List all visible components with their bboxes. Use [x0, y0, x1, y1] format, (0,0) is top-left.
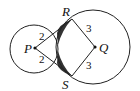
segment-qr: [72, 19, 95, 47]
point-p-dot: [33, 46, 36, 49]
length-ps: 2: [39, 53, 45, 65]
length-qs: 3: [86, 59, 92, 71]
segment-qs: [72, 47, 95, 76]
length-pr: 2: [39, 30, 45, 42]
label-s: S: [62, 77, 69, 91]
label-q: Q: [99, 40, 109, 55]
label-p: P: [23, 41, 32, 56]
geometry-diagram: P Q R S 2 2 3 3: [0, 0, 140, 91]
length-qr: 3: [86, 22, 92, 34]
shaded-region-bottom: [57, 51, 72, 76]
label-r: R: [61, 4, 70, 19]
point-q-dot: [93, 45, 96, 48]
